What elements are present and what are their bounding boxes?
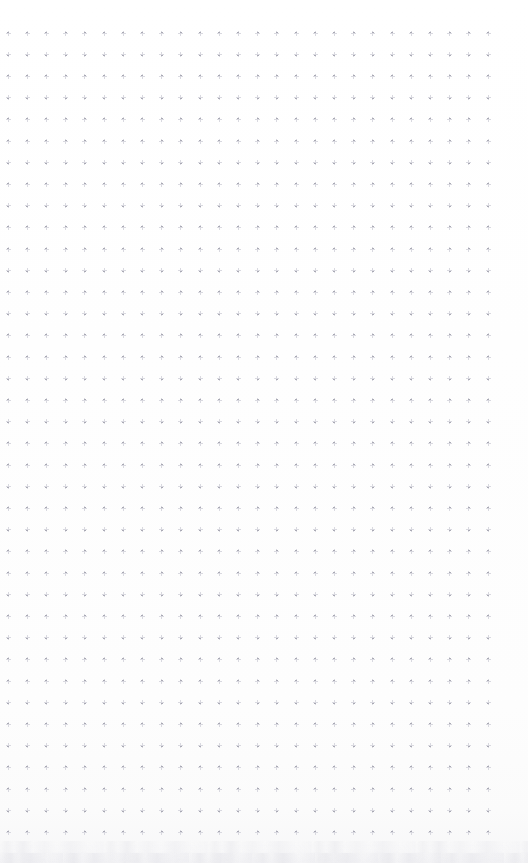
grid-dot-core bbox=[314, 248, 316, 250]
grid-dot-mark-icon bbox=[390, 203, 395, 208]
grid-dot-core bbox=[449, 118, 451, 120]
grid-dot-core bbox=[26, 32, 28, 34]
grid-dot-core bbox=[26, 226, 28, 228]
grid-dot-mark-icon bbox=[313, 787, 318, 792]
grid-dot-core bbox=[7, 464, 9, 466]
grid-dot-core bbox=[7, 270, 9, 272]
grid-dot-core bbox=[237, 464, 239, 466]
grid-dot-mark-icon bbox=[25, 549, 30, 554]
grid-dot-core bbox=[487, 766, 489, 768]
grid-dot-mark-icon bbox=[294, 484, 299, 489]
grid-dot-mark-icon bbox=[486, 592, 491, 597]
grid-dot-core bbox=[257, 399, 259, 401]
grid-dot-core bbox=[218, 658, 220, 660]
grid-dot-mark-icon bbox=[82, 268, 87, 273]
grid-dot-core bbox=[161, 248, 163, 250]
grid-dot-mark-icon bbox=[6, 787, 11, 792]
grid-dot-core bbox=[141, 399, 143, 401]
grid-dot-core bbox=[237, 399, 239, 401]
grid-dot-core bbox=[218, 183, 220, 185]
grid-dot-core bbox=[487, 615, 489, 617]
grid-dot-mark-icon bbox=[274, 614, 279, 619]
grid-dot-core bbox=[7, 97, 9, 99]
grid-dot-mark-icon bbox=[236, 808, 241, 813]
grid-dot-core bbox=[7, 205, 9, 207]
grid-dot-mark-icon bbox=[63, 592, 68, 597]
grid-dot-mark-icon bbox=[159, 808, 164, 813]
grid-dot-mark-icon bbox=[198, 139, 203, 144]
grid-dot-core bbox=[65, 637, 67, 639]
grid-dot-mark-icon bbox=[217, 830, 222, 835]
grid-dot-core bbox=[180, 248, 182, 250]
grid-dot-mark-icon bbox=[25, 31, 30, 36]
grid-dot-core bbox=[295, 442, 297, 444]
grid-dot-mark-icon bbox=[25, 808, 30, 813]
grid-dot-mark-icon bbox=[121, 74, 126, 79]
grid-dot-core bbox=[180, 399, 182, 401]
grid-dot-mark-icon bbox=[409, 225, 414, 230]
grid-dot-mark-icon bbox=[294, 679, 299, 684]
grid-dot-core bbox=[333, 442, 335, 444]
grid-dot-mark-icon bbox=[332, 765, 337, 770]
grid-dot-mark-icon bbox=[44, 355, 49, 360]
grid-dot-mark-icon bbox=[217, 635, 222, 640]
grid-dot-core bbox=[353, 54, 355, 56]
grid-dot-mark-icon bbox=[198, 290, 203, 295]
grid-dot-core bbox=[372, 421, 374, 423]
grid-dot-mark-icon bbox=[159, 182, 164, 187]
grid-dot-core bbox=[218, 745, 220, 747]
grid-dot-mark-icon bbox=[102, 333, 107, 338]
grid-dot-core bbox=[45, 97, 47, 99]
grid-dot-core bbox=[314, 637, 316, 639]
grid-dot-core bbox=[180, 810, 182, 812]
grid-dot-core bbox=[353, 399, 355, 401]
grid-dot-core bbox=[314, 97, 316, 99]
grid-dot-core bbox=[84, 680, 86, 682]
grid-dot-core bbox=[333, 831, 335, 833]
grid-dot-mark-icon bbox=[178, 592, 183, 597]
grid-dot-mark-icon bbox=[102, 117, 107, 122]
grid-dot-core bbox=[237, 637, 239, 639]
grid-dot-core bbox=[487, 723, 489, 725]
grid-dot-mark-icon bbox=[82, 311, 87, 316]
grid-dot-mark-icon bbox=[63, 441, 68, 446]
grid-dot-mark-icon bbox=[274, 376, 279, 381]
grid-dot-core bbox=[391, 291, 393, 293]
grid-dot-core bbox=[276, 97, 278, 99]
grid-dot-core bbox=[199, 810, 201, 812]
grid-dot-mark-icon bbox=[102, 527, 107, 532]
grid-dot-mark-icon bbox=[255, 225, 260, 230]
grid-dot-core bbox=[372, 831, 374, 833]
grid-dot-mark-icon bbox=[63, 203, 68, 208]
grid-dot-core bbox=[84, 766, 86, 768]
grid-dot-mark-icon bbox=[44, 225, 49, 230]
grid-dot-core bbox=[410, 550, 412, 552]
grid-dot-core bbox=[314, 378, 316, 380]
grid-dot-mark-icon bbox=[428, 160, 433, 165]
grid-dot-core bbox=[429, 356, 431, 358]
grid-dot-mark-icon bbox=[25, 182, 30, 187]
grid-dot-core bbox=[487, 788, 489, 790]
grid-dot-core bbox=[122, 205, 124, 207]
grid-dot-core bbox=[276, 356, 278, 358]
grid-dot-core bbox=[449, 723, 451, 725]
grid-dot-core bbox=[26, 594, 28, 596]
grid-dot-core bbox=[295, 766, 297, 768]
grid-dot-core bbox=[26, 399, 28, 401]
grid-dot-mark-icon bbox=[466, 398, 471, 403]
grid-dot-core bbox=[487, 486, 489, 488]
grid-dot-core bbox=[449, 831, 451, 833]
grid-dot-core bbox=[314, 442, 316, 444]
grid-dot-mark-icon bbox=[25, 484, 30, 489]
grid-dot-core bbox=[122, 270, 124, 272]
grid-dot-mark-icon bbox=[313, 376, 318, 381]
grid-dot-core bbox=[257, 486, 259, 488]
grid-dot-core bbox=[45, 594, 47, 596]
grid-dot-core bbox=[237, 615, 239, 617]
grid-dot-mark-icon bbox=[313, 592, 318, 597]
grid-dot-core bbox=[218, 334, 220, 336]
grid-dot-mark-icon bbox=[63, 614, 68, 619]
grid-dot-core bbox=[141, 356, 143, 358]
grid-dot-core bbox=[468, 615, 470, 617]
grid-dot-core bbox=[45, 810, 47, 812]
